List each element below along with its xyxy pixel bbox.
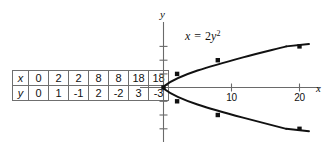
cell-x-4: 8 [109,71,129,86]
row-header-y: y [13,86,29,101]
x-axis-tick-label-20: 20 [294,92,305,103]
equation-exponent: 2 [216,29,220,38]
figure-parabola-with-value-table: x 0 2 2 8 8 18 18 y 0 1 -1 2 -2 3 -3 [0,0,334,153]
data-point-8-2 [216,58,220,62]
y-axis-label: y [159,8,165,20]
cell-y-0: 0 [29,86,49,101]
cell-y-4: -2 [109,86,129,101]
cell-x-0: 0 [29,71,49,86]
cell-y-1: 1 [49,86,69,101]
cell-y-2: -1 [69,86,89,101]
cell-y-3: 2 [89,86,109,101]
x-axis-label: x [315,82,321,94]
equation-lhs: x [184,29,191,43]
data-point-8-neg2 [216,113,220,117]
data-point-2-1 [175,72,179,76]
equation-equals: = [194,29,201,43]
parabola-plot: 10 20 x y x=2y2 [140,0,334,153]
row-header-x: x [13,71,29,86]
cell-x-3: 8 [89,71,109,86]
x-axis-tick-label-10: 10 [226,92,237,103]
curve-tail-lower [286,129,309,131]
data-point-0-0 [161,85,165,89]
cell-x-1: 2 [49,71,69,86]
equation-annotation: x=2y2 [184,29,220,43]
data-point-2-neg1 [175,99,179,103]
cell-x-2: 2 [69,71,89,86]
curve-tail-upper [286,44,309,46]
